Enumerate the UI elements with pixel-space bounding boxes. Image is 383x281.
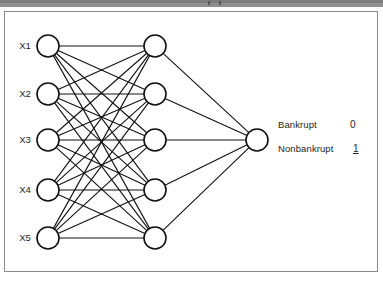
input-node-3	[37, 129, 59, 151]
input-label-x3: X3	[9, 134, 31, 145]
hidden-node-3	[144, 129, 166, 151]
edge-hidden-output-1-0	[165, 99, 247, 136]
edge-hidden-output-3-0	[165, 145, 247, 185]
hidden-layer-nodes	[144, 35, 166, 249]
edges-hidden-to-output	[163, 53, 249, 230]
legend-row-nonbankrupt: Nonbankrupt 1	[278, 143, 370, 157]
hidden-node-2	[144, 83, 166, 105]
input-layer-nodes	[37, 35, 59, 249]
edges-input-to-hidden	[53, 46, 149, 238]
legend-row-bankrupt: Bankrupt 0	[278, 119, 370, 133]
input-node-1	[37, 35, 59, 57]
legend-value-bankrupt: 0	[350, 119, 356, 130]
input-label-x1: X1	[9, 40, 31, 51]
edge-hidden-output-4-0	[163, 148, 249, 231]
output-layer-nodes	[246, 129, 268, 151]
input-label-x5: X5	[9, 232, 31, 243]
input-label-x4: X4	[9, 184, 31, 195]
input-label-x2: X2	[9, 88, 31, 99]
legend-value-nonbankrupt: 1	[353, 143, 359, 154]
legend-label-nonbankrupt: Nonbankrupt	[278, 143, 334, 154]
output-node-1	[246, 129, 268, 151]
hidden-node-4	[144, 179, 166, 201]
neural-network-diagram	[0, 0, 383, 281]
input-node-4	[37, 179, 59, 201]
hidden-node-1	[144, 35, 166, 57]
edge-hidden-output-0-0	[163, 53, 249, 132]
hidden-node-5	[144, 227, 166, 249]
input-node-2	[37, 83, 59, 105]
legend-label-bankrupt: Bankrupt	[278, 119, 317, 130]
input-node-5	[37, 227, 59, 249]
